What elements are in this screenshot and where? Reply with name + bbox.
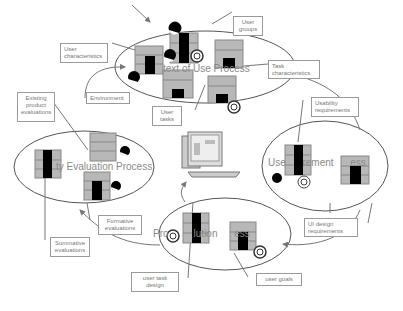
label-user-characteristics: User characteristics <box>60 43 108 63</box>
label-user-tasks: User tasks <box>152 106 182 126</box>
label-user-task-design: user task design <box>131 272 179 292</box>
evaluation-title: ty Evaluation Process <box>56 161 152 172</box>
requirements-title: Use rement ess <box>268 157 366 168</box>
context-form-1 <box>135 46 163 74</box>
label-existing-product-evaluations: Existing product evaluations <box>17 92 55 122</box>
label-usability-requirements: Usability requirements <box>311 97 359 117</box>
context-form-5 <box>208 76 236 103</box>
context-form-4 <box>163 70 193 98</box>
production-title: Pro lution ess <box>153 228 250 239</box>
label-user-goals: user goals <box>256 273 302 286</box>
label-ui-design-requirements: UI design requirements <box>304 218 358 237</box>
computer-icon <box>182 132 240 177</box>
label-environment: Environment <box>86 92 130 104</box>
label-task-characteristics: Task characteristics <box>268 60 320 79</box>
label-formative-evaluations: Formative evaluations <box>98 215 142 235</box>
label-summative-evaluations: Summative evaluations <box>50 237 90 257</box>
context-of-use-title: text of Use Process <box>163 63 250 74</box>
label-user-groups: User groups <box>233 16 263 36</box>
